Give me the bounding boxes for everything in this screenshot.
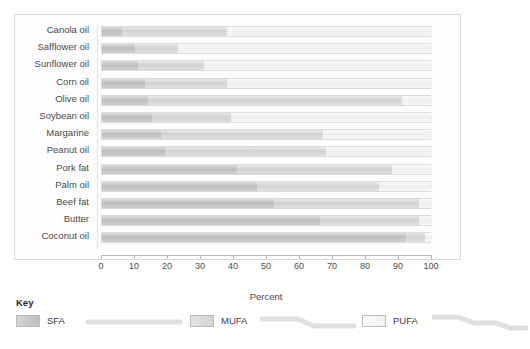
bar-segment-sfa xyxy=(102,44,135,53)
category-label: Beef fat xyxy=(56,197,89,207)
x-axis-tick-label: 100 xyxy=(423,261,438,271)
bar-segment-pufa xyxy=(419,216,432,225)
bar-segment-mufa xyxy=(135,44,178,53)
x-axis-tick-label: 20 xyxy=(162,261,172,271)
stacked-bar-row xyxy=(101,181,431,192)
x-axis-tick-label: 70 xyxy=(327,261,337,271)
bar-segment-pufa xyxy=(379,182,432,191)
x-axis-tick xyxy=(266,255,267,259)
bar-segment-pufa xyxy=(419,199,432,208)
bar-segment-mufa xyxy=(161,130,323,139)
x-axis-tick xyxy=(431,255,432,259)
bar-segment-mufa xyxy=(320,216,419,225)
category-label-column: Canola oilSafflower oilSunflower oilCorn… xyxy=(15,23,98,249)
bar-segment-mufa xyxy=(145,79,228,88)
legend-title: Key xyxy=(16,297,33,308)
bar-segment-pufa xyxy=(326,147,432,156)
stacked-bar-row xyxy=(101,146,431,157)
bar-segment-pufa xyxy=(178,44,432,53)
bar-segment-mufa xyxy=(122,27,228,36)
legend-swatch-pufa xyxy=(362,315,386,327)
one-kink-chain-icon xyxy=(258,313,358,331)
bar-segment-sfa xyxy=(102,216,320,225)
bar-segment-sfa xyxy=(102,165,237,174)
category-label: Pork fat xyxy=(56,163,89,173)
x-axis-tick xyxy=(299,255,300,259)
legend-label: SFA xyxy=(47,315,65,327)
bar-segment-mufa xyxy=(148,96,402,105)
x-axis: 0102030405060708090100 xyxy=(101,255,431,256)
x-axis-tick-label: 90 xyxy=(393,261,403,271)
bar-segment-mufa xyxy=(274,199,419,208)
bar-segment-sfa xyxy=(102,147,165,156)
legend-label: PUFA xyxy=(393,315,418,327)
stacked-bar-row xyxy=(101,164,431,175)
bar-segment-sfa xyxy=(102,96,148,105)
stacked-bar-row xyxy=(101,60,431,71)
category-label: Margarine xyxy=(46,128,89,138)
bar-segment-pufa xyxy=(402,96,432,105)
stacked-bar-row xyxy=(101,26,431,37)
x-axis-tick xyxy=(101,255,102,259)
stacked-bar-row xyxy=(101,78,431,89)
bar-segment-sfa xyxy=(102,113,152,122)
stacked-bar-row xyxy=(101,198,431,209)
x-axis-tick-label: 0 xyxy=(98,261,103,271)
x-axis-tick xyxy=(167,255,168,259)
bar-segment-sfa xyxy=(102,233,406,242)
x-axis-tick xyxy=(200,255,201,259)
stacked-bar-row xyxy=(101,43,431,54)
x-axis-tick-label: 50 xyxy=(261,261,271,271)
x-axis-tick-label: 80 xyxy=(360,261,370,271)
bar-segment-pufa xyxy=(392,165,432,174)
bar-segment-pufa xyxy=(204,61,432,70)
bar-segment-sfa xyxy=(102,61,138,70)
x-axis-tick-label: 10 xyxy=(129,261,139,271)
bar-segment-mufa xyxy=(138,61,204,70)
category-label: Peanut oil xyxy=(47,145,89,155)
category-label: Palm oil xyxy=(55,180,89,190)
category-label: Butter xyxy=(64,214,89,224)
straight-chain-icon xyxy=(84,313,184,331)
bar-segment-pufa xyxy=(231,113,432,122)
category-label: Corn oil xyxy=(56,77,89,87)
stacked-bar-row xyxy=(101,112,431,123)
category-label: Sunflower oil xyxy=(35,59,89,69)
x-axis-tick xyxy=(233,255,234,259)
x-axis-tick xyxy=(134,255,135,259)
bar-segment-pufa xyxy=(323,130,432,139)
category-label: Safflower oil xyxy=(37,42,89,52)
stacked-bar-row xyxy=(101,95,431,106)
x-axis-tick xyxy=(398,255,399,259)
x-axis-tick xyxy=(332,255,333,259)
category-label: Canola oil xyxy=(47,25,89,35)
bar-segment-mufa xyxy=(152,113,231,122)
bar-segment-pufa xyxy=(227,27,432,36)
bar-segment-pufa xyxy=(425,233,432,242)
x-axis-tick-label: 60 xyxy=(294,261,304,271)
two-kink-chain-icon xyxy=(430,313,530,331)
bar-segment-sfa xyxy=(102,130,161,139)
chart-panel: Canola oilSafflower oilSunflower oilCorn… xyxy=(14,14,461,260)
legend-swatch-mufa xyxy=(190,315,214,327)
bar-segment-sfa xyxy=(102,182,257,191)
x-axis-tick-label: 40 xyxy=(228,261,238,271)
bar-segment-mufa xyxy=(237,165,392,174)
bar-segment-sfa xyxy=(102,79,145,88)
stacked-bar-row xyxy=(101,232,431,243)
bar-segment-sfa xyxy=(102,27,122,36)
category-label: Soybean oil xyxy=(39,111,89,121)
x-axis-tick xyxy=(365,255,366,259)
legend-swatch-sfa xyxy=(16,315,40,327)
category-label: Coconut oil xyxy=(41,231,89,241)
bar-segment-mufa xyxy=(406,233,426,242)
category-label: Olive oil xyxy=(55,94,89,104)
bar-segment-mufa xyxy=(257,182,379,191)
bar-segment-mufa xyxy=(165,147,327,156)
bar-segment-pufa xyxy=(227,79,432,88)
legend-label: MUFA xyxy=(221,315,247,327)
plot-wrap: Canola oilSafflower oilSunflower oilCorn… xyxy=(15,15,460,259)
stacked-bar-row xyxy=(101,129,431,140)
bar-segment-sfa xyxy=(102,199,274,208)
chart-legend: Key SFAMUFAPUFA xyxy=(14,297,464,343)
